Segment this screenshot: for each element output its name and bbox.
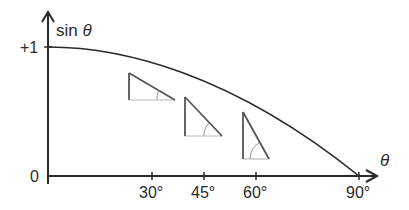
x-tick-label-90: 90° (346, 184, 370, 201)
y-tick-label-zero: 0 (30, 168, 39, 185)
y-axis (42, 12, 54, 184)
x-axis (48, 170, 377, 182)
diagram: sin θ +1 0 θ 30° 45° 60° 90° (0, 0, 409, 210)
triangle-60 (243, 112, 269, 159)
curve (48, 47, 359, 176)
x-axis-label: θ (380, 151, 390, 170)
x-tick-label-60: 60° (243, 184, 267, 201)
x-tick-label-45: 45° (191, 184, 215, 201)
triangle-45 (185, 97, 222, 136)
x-tick-label-30: 30° (139, 184, 163, 201)
triangle-30 (129, 73, 175, 100)
y-tick-label-top: +1 (20, 39, 38, 56)
y-axis-label: sin θ (56, 21, 92, 40)
